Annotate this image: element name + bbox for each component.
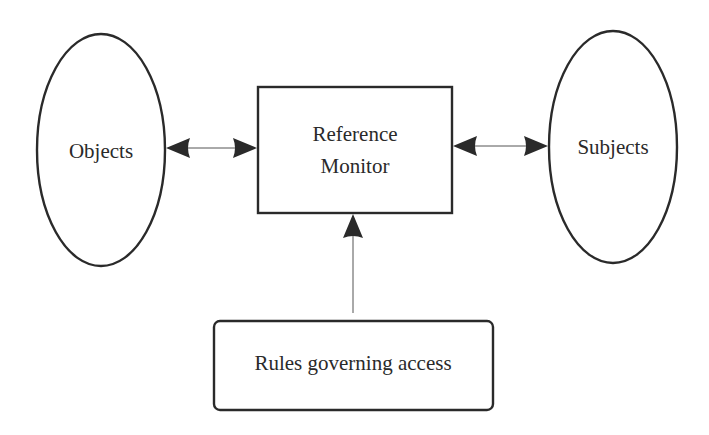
edge-reference-monitor-subjects — [453, 136, 548, 156]
objects-label: Objects — [69, 139, 133, 163]
reference-monitor-diagram: Objects Reference Monitor Subjects Rules… — [0, 0, 709, 435]
reference-monitor-label-line2: Monitor — [321, 154, 390, 178]
arrowhead-up-icon — [343, 214, 363, 238]
edge-objects-reference-monitor — [166, 138, 257, 158]
edge-rules-reference-monitor — [343, 214, 363, 313]
objects-node: Objects — [37, 34, 165, 266]
reference-monitor-label-line1: Reference — [312, 122, 397, 146]
subjects-label: Subjects — [577, 135, 648, 159]
subjects-node: Subjects — [549, 31, 677, 263]
arrowhead-left-icon — [453, 136, 477, 156]
reference-monitor-box — [258, 87, 452, 213]
arrowhead-left-icon — [166, 138, 190, 158]
arrowhead-right-icon — [524, 136, 548, 156]
reference-monitor-node: Reference Monitor — [258, 87, 452, 213]
arrowhead-right-icon — [233, 138, 257, 158]
rules-label: Rules governing access — [254, 351, 451, 375]
rules-node: Rules governing access — [214, 321, 493, 410]
